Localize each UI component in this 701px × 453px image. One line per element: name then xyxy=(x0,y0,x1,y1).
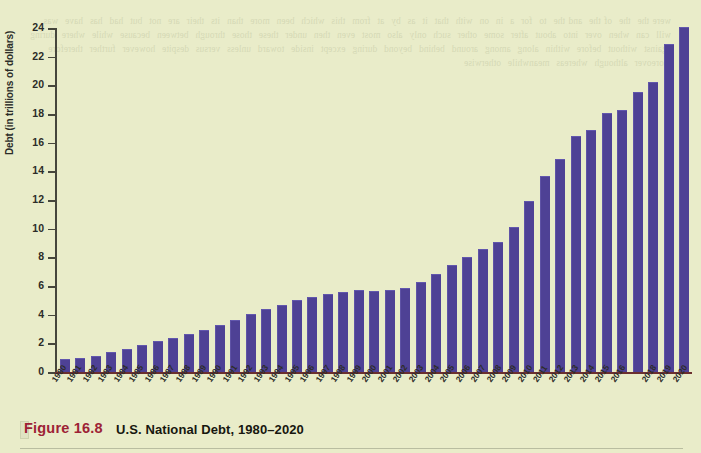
bar-slot xyxy=(367,28,382,372)
bar-slot xyxy=(103,28,118,372)
bar xyxy=(509,227,519,372)
bar-slot xyxy=(676,28,691,372)
bar xyxy=(679,27,689,372)
x-label-slot: 2016 xyxy=(616,376,632,410)
y-axis-tick-label: 18 xyxy=(32,107,44,119)
bar-slot xyxy=(72,28,87,372)
bar xyxy=(447,265,457,372)
y-axis-tick-label: 14 xyxy=(32,164,44,176)
y-axis-tick-label: 12 xyxy=(32,193,44,205)
bar xyxy=(416,282,426,372)
bar xyxy=(555,159,565,372)
bar xyxy=(431,274,441,372)
bar xyxy=(571,136,581,373)
bar-slot xyxy=(599,28,614,372)
x-label-slot: 2020 xyxy=(678,376,694,410)
bar-slot xyxy=(630,28,645,372)
bar-slot xyxy=(57,28,72,372)
bar-slot xyxy=(258,28,273,372)
bar-slot xyxy=(553,28,568,372)
bar xyxy=(462,257,472,372)
bar-slot xyxy=(583,28,598,372)
bar xyxy=(354,290,364,372)
bar-slot xyxy=(413,28,428,372)
y-axis-tick-label: 0 xyxy=(38,365,44,377)
bar-slot xyxy=(305,28,320,372)
bar-slot xyxy=(196,28,211,372)
y-axis-tick-label: 4 xyxy=(38,308,44,320)
bar xyxy=(540,176,550,372)
bar-slot xyxy=(227,28,242,372)
y-axis-tick-label: 22 xyxy=(32,50,44,62)
bar-slot xyxy=(537,28,552,372)
y-axis-tick: 18 xyxy=(48,114,55,116)
y-axis-tick: 8 xyxy=(48,257,55,259)
bar-slot xyxy=(382,28,397,372)
bar-slot xyxy=(429,28,444,372)
bar-slot xyxy=(398,28,413,372)
bar xyxy=(493,242,503,372)
bar-slot xyxy=(614,28,629,372)
bar xyxy=(633,92,643,372)
bar xyxy=(307,297,317,372)
bar xyxy=(478,249,488,372)
bar xyxy=(524,201,534,372)
bar-slot xyxy=(274,28,289,372)
y-axis-tick-label: 16 xyxy=(32,136,44,148)
bar-slot xyxy=(181,28,196,372)
bar-slot xyxy=(475,28,490,372)
bar-slot xyxy=(165,28,180,372)
chart-area: Debt (in trillions of dollars) 242220181… xyxy=(0,0,701,410)
y-axis-tick: 14 xyxy=(48,171,55,173)
y-axis-tick: 2 xyxy=(48,343,55,345)
bar xyxy=(648,82,658,372)
bar xyxy=(664,44,674,372)
bar xyxy=(323,294,333,372)
y-axis-tick: 24 xyxy=(48,28,55,30)
bar-slot xyxy=(243,28,258,372)
bar-slot xyxy=(289,28,304,372)
bar-series xyxy=(57,28,692,372)
bar-slot xyxy=(522,28,537,372)
figure-page: were the the of the and the to for a in … xyxy=(0,0,701,453)
y-axis-tick-label: 20 xyxy=(32,78,44,90)
bar-slot xyxy=(119,28,134,372)
y-axis-tick-label: 6 xyxy=(38,279,44,291)
y-axis-tick-label: 10 xyxy=(32,222,44,234)
figure-caption: Figure 16.8 U.S. National Debt, 1980–202… xyxy=(0,415,701,453)
y-axis-tick: 10 xyxy=(48,229,55,231)
bar-slot xyxy=(212,28,227,372)
bar xyxy=(277,305,287,372)
y-axis-tick: 20 xyxy=(48,85,55,87)
bar-slot xyxy=(568,28,583,372)
bar-slot xyxy=(491,28,506,372)
bar-slot xyxy=(506,28,521,372)
figure-title: U.S. National Debt, 1980–2020 xyxy=(116,422,304,437)
bar-slot xyxy=(336,28,351,372)
bar xyxy=(617,110,627,372)
bar xyxy=(369,291,379,372)
y-axis-title: Debt (in trillions of dollars) xyxy=(4,0,15,155)
bar-slot xyxy=(88,28,103,372)
bar-slot xyxy=(460,28,475,372)
bar-slot xyxy=(150,28,165,372)
bar xyxy=(385,290,395,372)
y-axis-tick: 4 xyxy=(48,315,55,317)
caption-divider xyxy=(20,448,683,449)
y-axis-tick: 16 xyxy=(48,143,55,145)
x-axis-labels: 1980198119821983198419851986198719881989… xyxy=(57,376,694,410)
y-axis-tick-label: 8 xyxy=(38,250,44,262)
figure-number: Figure 16.8 xyxy=(24,420,103,436)
bar-slot xyxy=(320,28,335,372)
bar xyxy=(602,113,612,372)
y-axis-tick: 6 xyxy=(48,286,55,288)
y-axis-tick-label: 2 xyxy=(38,336,44,348)
bar xyxy=(338,292,348,372)
bar-slot xyxy=(134,28,149,372)
y-axis-tick: 12 xyxy=(48,200,55,202)
bar-slot xyxy=(661,28,676,372)
y-axis-tick-label: 24 xyxy=(32,21,44,33)
bar xyxy=(292,300,302,372)
bar-slot xyxy=(645,28,660,372)
y-axis-tick: 22 xyxy=(48,57,55,59)
